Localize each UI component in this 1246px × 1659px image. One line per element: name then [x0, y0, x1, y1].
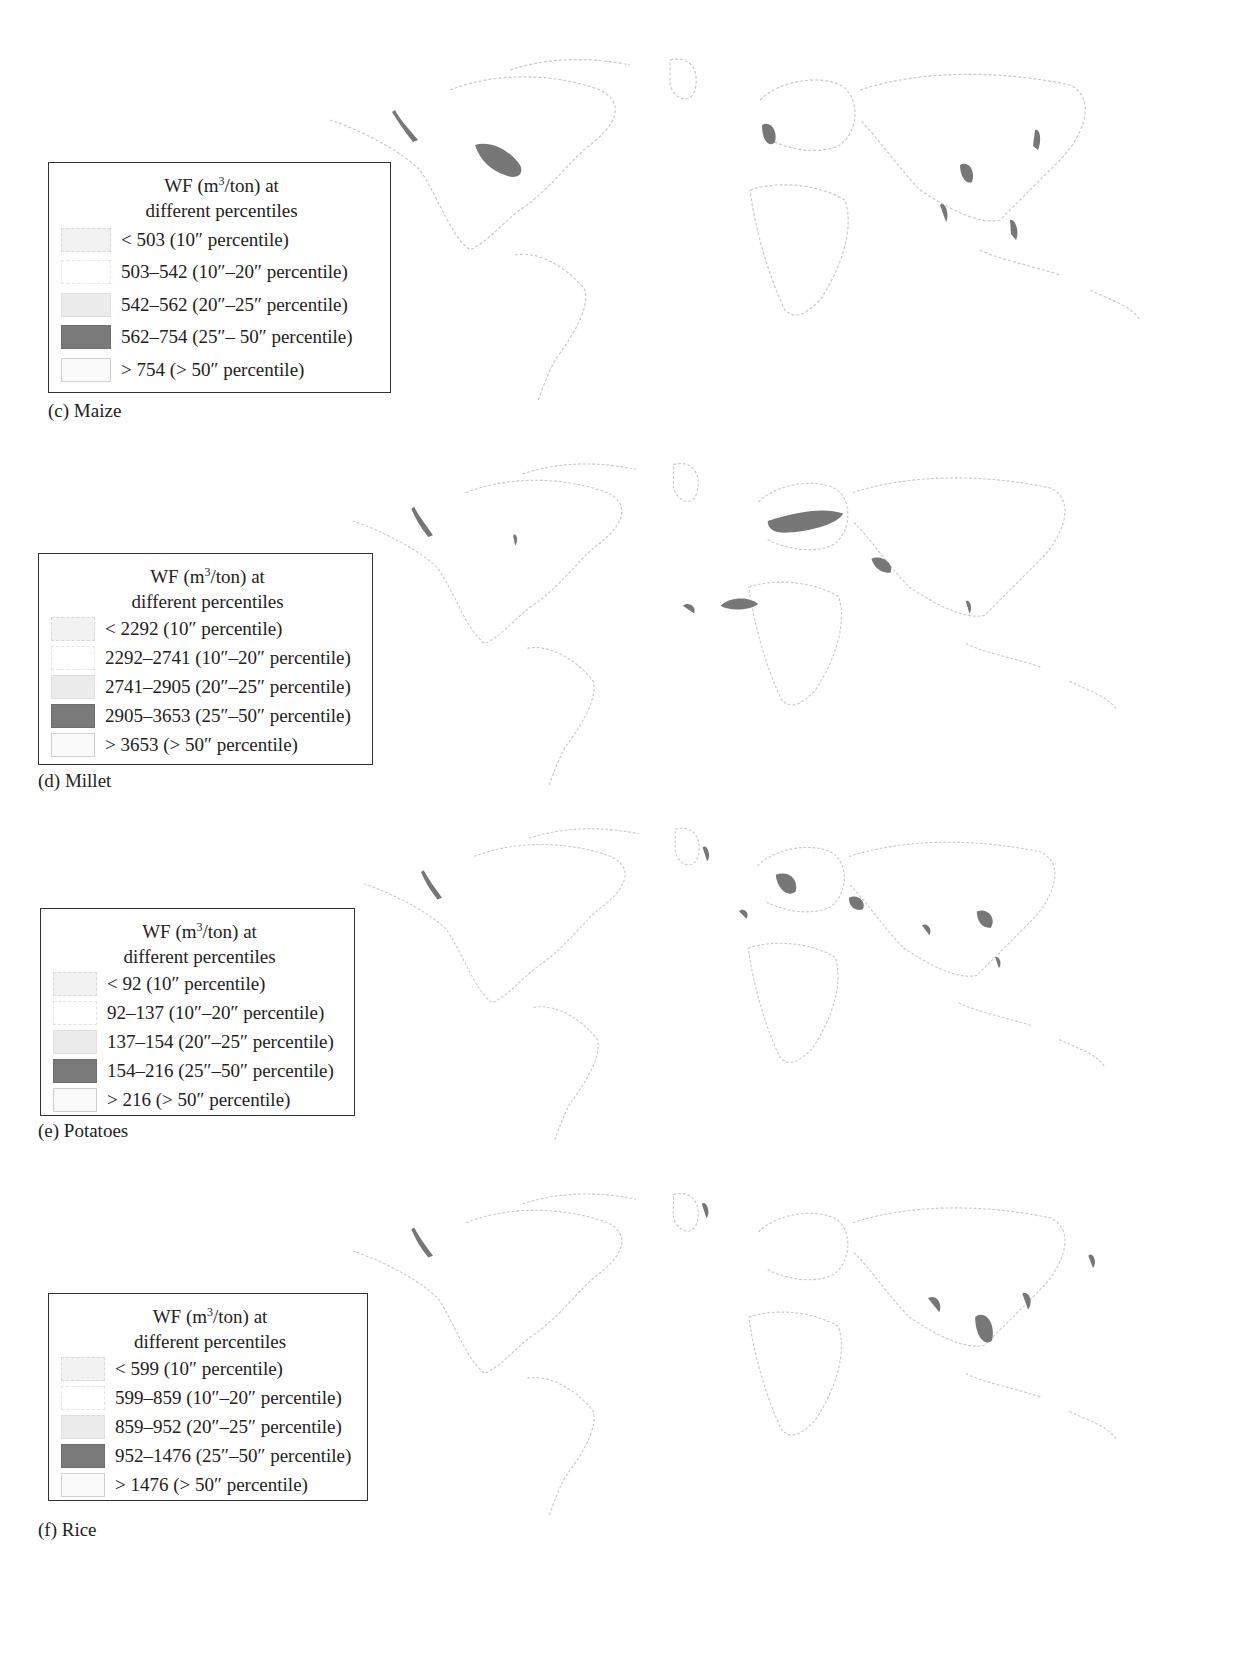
swatch-over-50th	[51, 733, 95, 757]
legend-millet: WF (m3/ton) at different percentiles < 2…	[38, 553, 373, 765]
caption-maize: (c) Maize	[48, 400, 121, 422]
legend-item: > 1476 (> 50″ percentile)	[61, 1470, 359, 1499]
legend-item: 503–542 (10″–20″ percentile)	[61, 256, 382, 289]
swatch-10-20th	[53, 1001, 97, 1025]
legend-item: < 503 (10″ percentile)	[61, 223, 382, 256]
legend-item: > 3653 (> 50″ percentile)	[51, 730, 364, 759]
legend-title: WF (m3/ton) at different percentiles	[53, 915, 346, 969]
swatch-10-20th	[61, 1386, 105, 1410]
legend-item: > 754 (> 50″ percentile)	[61, 353, 382, 386]
legend-item: 542–562 (20″–25″ percentile)	[61, 288, 382, 321]
caption-millet: (d) Millet	[38, 770, 111, 792]
legend-item: 859–952 (20″–25″ percentile)	[61, 1412, 359, 1441]
legend-title: WF (m3/ton) at different percentiles	[61, 1300, 359, 1354]
panel-rice: WF (m3/ton) at different percentiles < 5…	[0, 1185, 1246, 1659]
panel-millet: WF (m3/ton) at different percentiles < 2…	[0, 440, 1246, 820]
legend-item: 2292–2741 (10″–20″ percentile)	[51, 643, 364, 672]
swatch-25-50th	[53, 1059, 97, 1083]
world-map-maize	[300, 50, 1160, 400]
legend-title: WF (m3/ton) at different percentiles	[61, 169, 382, 223]
legend-item: 952–1476 (25″–50″ percentile)	[61, 1441, 359, 1470]
legend-item: 2905–3653 (25″–50″ percentile)	[51, 701, 364, 730]
swatch-over-50th	[61, 358, 111, 382]
swatch-25-50th	[51, 704, 95, 728]
legend-item: < 92 (10″ percentile)	[53, 969, 346, 998]
caption-rice: (f) Rice	[38, 1519, 97, 1541]
world-map-potatoes	[300, 820, 1160, 1140]
caption-potatoes: (e) Potatoes	[38, 1120, 128, 1142]
swatch-20-25th	[61, 1415, 105, 1439]
swatch-over-50th	[53, 1088, 97, 1112]
swatch-20-25th	[61, 293, 111, 317]
swatch-20-25th	[53, 1030, 97, 1054]
swatch-10-20th	[51, 646, 95, 670]
world-map-rice	[300, 1185, 1160, 1515]
panel-maize: WF (m3/ton) at different percentiles < 5…	[0, 0, 1246, 440]
swatch-20-25th	[51, 675, 95, 699]
panel-potatoes: WF (m3/ton) at different percentiles < 9…	[0, 820, 1246, 1185]
legend-item: 562–754 (25″– 50″ percentile)	[61, 321, 382, 354]
legend-item: > 216 (> 50″ percentile)	[53, 1085, 346, 1114]
legend-item: < 2292 (10″ percentile)	[51, 614, 364, 643]
legend-item: 2741–2905 (20″–25″ percentile)	[51, 672, 364, 701]
legend-rice: WF (m3/ton) at different percentiles < 5…	[48, 1293, 368, 1501]
legend-maize: WF (m3/ton) at different percentiles < 5…	[48, 162, 391, 393]
legend-item: 154–216 (25″–50″ percentile)	[53, 1056, 346, 1085]
swatch-10th	[61, 228, 111, 252]
legend-item: < 599 (10″ percentile)	[61, 1354, 359, 1383]
swatch-10th	[61, 1357, 105, 1381]
swatch-10th	[53, 972, 97, 996]
swatch-25-50th	[61, 1444, 105, 1468]
world-map-millet	[300, 455, 1160, 785]
legend-item: 599–859 (10″–20″ percentile)	[61, 1383, 359, 1412]
swatch-10-20th	[61, 260, 111, 284]
legend-item: 137–154 (20″–25″ percentile)	[53, 1027, 346, 1056]
legend-item: 92–137 (10″–20″ percentile)	[53, 998, 346, 1027]
swatch-25-50th	[61, 325, 111, 349]
legend-potatoes: WF (m3/ton) at different percentiles < 9…	[40, 908, 355, 1116]
swatch-over-50th	[61, 1473, 105, 1497]
swatch-10th	[51, 617, 95, 641]
legend-title: WF (m3/ton) at different percentiles	[51, 560, 364, 614]
